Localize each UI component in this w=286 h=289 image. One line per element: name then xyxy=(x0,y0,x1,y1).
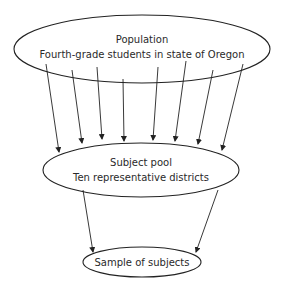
sample-node: Sample of subjects xyxy=(83,247,201,277)
subject-pool-subtitle: Ten representative districts xyxy=(72,172,209,183)
arrow xyxy=(175,61,186,141)
arrow xyxy=(46,64,59,152)
arrow xyxy=(153,67,158,140)
sample-title: Sample of subjects xyxy=(95,257,190,268)
subject-pool-node: Subject pool Ten representative district… xyxy=(43,143,239,197)
arrow xyxy=(72,70,82,143)
subject-pool-title: Subject pool xyxy=(110,157,172,168)
arrow xyxy=(196,190,218,252)
arrow xyxy=(222,64,243,150)
sampling-diagram: Population Fourth-grade students in stat… xyxy=(0,0,286,289)
population-node: Population Fourth-grade students in stat… xyxy=(14,15,270,83)
arrow xyxy=(198,70,213,144)
population-subtitle: Fourth-grade students in state of Oregon xyxy=(39,49,244,60)
population-title: Population xyxy=(116,34,169,45)
population-to-pool-arrows xyxy=(46,61,243,152)
pool-to-sample-arrows xyxy=(83,190,218,252)
arrow xyxy=(83,190,93,252)
arrow xyxy=(97,67,102,139)
arrow xyxy=(123,79,124,141)
